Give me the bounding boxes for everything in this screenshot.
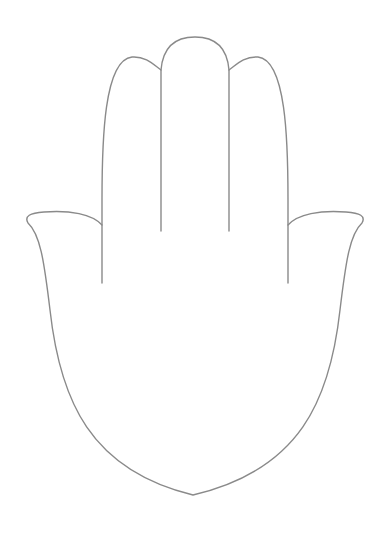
left-finger-path <box>102 57 161 225</box>
middle-finger-path <box>161 37 229 231</box>
right-finger-path <box>229 57 288 225</box>
hamsa-outline <box>27 37 363 495</box>
hand-outline-path <box>27 212 363 495</box>
hamsa-hand-drawing <box>0 0 390 537</box>
